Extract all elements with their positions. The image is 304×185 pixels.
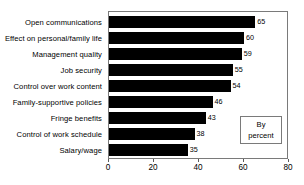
legend-by-percent: By percent <box>240 116 282 144</box>
bar-value-label: 35 <box>188 143 198 157</box>
x-tick-label: 60 <box>238 163 247 172</box>
bar <box>109 16 255 28</box>
x-tick-mark <box>108 159 109 162</box>
x-tick-mark <box>243 159 244 162</box>
x-tick-mark <box>153 159 154 162</box>
bar <box>109 144 188 156</box>
category-label: Salary/wage <box>59 143 102 159</box>
bar <box>109 80 231 92</box>
bar-row: 59 <box>109 46 289 62</box>
bar-value-label: 59 <box>242 47 252 61</box>
bar <box>109 48 242 60</box>
bar-value-label: 60 <box>244 31 254 45</box>
bar <box>109 112 206 124</box>
bar <box>109 128 195 140</box>
legend-line-1: By <box>257 119 266 130</box>
bar-row: 55 <box>109 62 289 78</box>
category-label: Control of work schedule <box>17 127 102 143</box>
category-label: Effect on personal/family life <box>5 31 102 47</box>
category-label: Management quality <box>32 47 102 63</box>
x-tick-label: 0 <box>106 163 111 172</box>
x-tick-mark <box>288 159 289 162</box>
bar-row: 35 <box>109 142 289 158</box>
bar <box>109 64 233 76</box>
bar-value-label: 38 <box>195 127 205 141</box>
category-label: Open communications <box>25 15 102 31</box>
bar-value-label: 46 <box>213 95 223 109</box>
category-label: Family-supportive policies <box>13 95 102 111</box>
x-tick-mark <box>198 159 199 162</box>
bar-chart: Open communicationsEffect on personal/fa… <box>0 0 304 185</box>
legend-line-2: percent <box>248 130 273 141</box>
category-axis: Open communicationsEffect on personal/fa… <box>0 13 106 158</box>
bar <box>109 32 244 44</box>
category-label: Control over work content <box>14 79 102 95</box>
bar-value-label: 65 <box>255 15 265 29</box>
category-label: Fringe benefits <box>51 111 102 127</box>
bar-row: 60 <box>109 30 289 46</box>
x-axis: 020406080 <box>108 159 288 183</box>
bar-row: 65 <box>109 14 289 30</box>
bar-row: 54 <box>109 78 289 94</box>
bar-value-label: 54 <box>231 79 241 93</box>
bar-value-label: 43 <box>206 111 216 125</box>
x-tick-label: 40 <box>193 163 202 172</box>
x-tick-label: 20 <box>148 163 157 172</box>
category-label: Job security <box>61 63 102 79</box>
bar-value-label: 55 <box>233 63 243 77</box>
bar <box>109 96 213 108</box>
x-tick-label: 80 <box>283 163 292 172</box>
bar-row: 46 <box>109 94 289 110</box>
